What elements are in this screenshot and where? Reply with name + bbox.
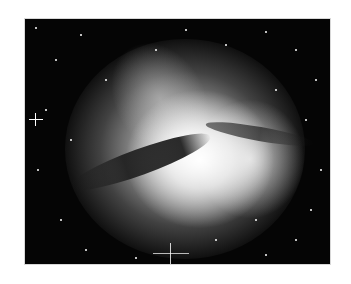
galaxy-photo [24,18,331,265]
